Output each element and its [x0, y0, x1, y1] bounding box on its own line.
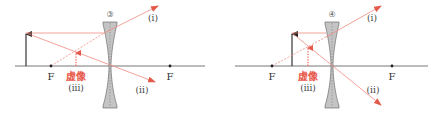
ray-ii — [26, 33, 155, 82]
ray-label-i: (i) — [148, 13, 158, 23]
virtual-image-label: 虚像 — [66, 70, 87, 82]
ray-label-ii: (ii) — [136, 85, 149, 95]
diagram-4: ④ F F 虚像 (iii) (i) (ii) — [235, 6, 428, 108]
focal-label-right: F — [389, 71, 396, 82]
ray-label-iii: (iii) — [300, 83, 316, 93]
concave-lens-diagrams: ③ F F 虚像 (iii) (i) (ii) — [0, 0, 430, 115]
focal-label-left: F — [269, 71, 276, 82]
focal-label-right: F — [167, 71, 174, 82]
virtual-image-label: 虚像 — [298, 70, 319, 82]
diagram-number-label: ④ — [328, 10, 335, 19]
diagram-number-label: ③ — [106, 10, 113, 19]
ray-label-ii: (ii) — [367, 85, 380, 95]
ray-label-i: (i) — [367, 13, 377, 23]
focal-point-left — [271, 65, 274, 68]
rays — [26, 6, 158, 82]
focal-point-left — [50, 65, 53, 68]
focal-point-right — [391, 65, 394, 68]
ray-label-iii: (iii) — [68, 83, 84, 93]
focal-label-left: F — [48, 71, 55, 82]
rays — [272, 6, 381, 105]
focal-point-right — [169, 65, 172, 68]
diagram-3: ③ F F 虚像 (iii) (i) (ii) — [15, 6, 205, 108]
